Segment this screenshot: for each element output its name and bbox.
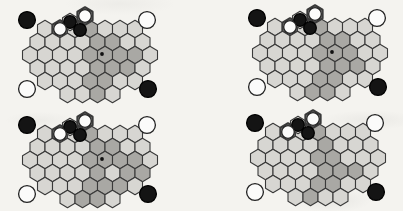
center-dot: [330, 50, 334, 54]
board-bottom-right: [247, 110, 386, 205]
hex-cell: [318, 188, 333, 205]
corner-stone-black-bottom-right: [140, 186, 157, 203]
corner-stone-white-bottom-left: [19, 186, 36, 203]
hex-cell: [38, 177, 53, 194]
corner-stone-white-bottom-left: [247, 184, 264, 201]
hex-cell: [90, 190, 105, 207]
corner-stone-white-top-right: [139, 117, 156, 134]
hex-cell: [333, 188, 348, 205]
corner-stone-black-bottom-right: [368, 184, 385, 201]
hex-boards-figure: [0, 0, 403, 211]
hex-cell: [288, 188, 303, 205]
black-stone: [74, 129, 87, 142]
white-stone: [282, 126, 295, 139]
hex-cell: [303, 188, 318, 205]
corner-stone-white-top-right: [369, 10, 386, 27]
black-stone: [304, 22, 317, 35]
hex-cell: [60, 190, 75, 207]
hex-cell: [335, 83, 350, 100]
hex-cell: [38, 72, 53, 89]
white-stone: [284, 21, 297, 34]
white-stone: [307, 113, 320, 126]
black-stone: [74, 24, 87, 37]
board-top-right: [249, 5, 388, 100]
center-dot: [100, 157, 104, 161]
white-stone: [54, 23, 67, 36]
corner-stone-black-bottom-right: [370, 79, 387, 96]
hex-cell: [320, 83, 335, 100]
white-stone: [309, 8, 322, 21]
corner-stone-black-top-left: [249, 10, 266, 27]
hex-cell: [268, 70, 283, 87]
corner-stone-black-top-left: [19, 117, 36, 134]
hex-cell: [90, 85, 105, 102]
board-bottom-left: [19, 112, 158, 207]
hex-cell: [266, 175, 281, 192]
corner-stone-white-bottom-left: [249, 79, 266, 96]
black-stone: [302, 127, 315, 140]
hex-cell: [60, 85, 75, 102]
corner-stone-black-top-left: [19, 12, 36, 29]
corner-stone-white-bottom-left: [19, 81, 36, 98]
white-stone: [79, 115, 92, 128]
corner-stone-white-top-right: [139, 12, 156, 29]
corner-stone-black-bottom-right: [140, 81, 157, 98]
white-stone: [79, 10, 92, 23]
scanned-figure: [0, 0, 403, 211]
hex-cell: [75, 85, 90, 102]
hex-cell: [105, 85, 120, 102]
center-dot: [100, 52, 104, 56]
hex-cell: [305, 83, 320, 100]
corner-stone-white-top-right: [367, 115, 384, 132]
hex-cell: [290, 83, 305, 100]
hex-cell: [75, 190, 90, 207]
board-top-left: [19, 7, 158, 102]
white-stone: [54, 128, 67, 141]
hex-cell: [105, 190, 120, 207]
corner-stone-black-top-left: [247, 115, 264, 132]
